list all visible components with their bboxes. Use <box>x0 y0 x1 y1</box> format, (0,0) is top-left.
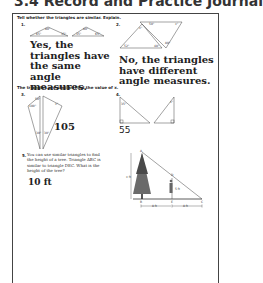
svg-text:x°: x° <box>170 100 174 104</box>
problem-3-number: 3. <box>21 92 25 97</box>
section2-instruction: The triangles are similar. Find the valu… <box>17 85 118 90</box>
problem-3-answer: 105 <box>54 122 75 133</box>
svg-text:x°: x° <box>139 26 143 30</box>
problem-2-triangles: 52° x° 48° 50° x° 80° <box>118 20 190 50</box>
problem-4-triangles: 35° x° <box>118 95 178 125</box>
svg-text:80°: 80° <box>83 27 89 31</box>
svg-text:100°: 100° <box>29 104 37 108</box>
svg-text:65°: 65° <box>36 32 42 36</box>
svg-text:30°: 30° <box>44 131 50 135</box>
problem-5-text: You can use similar triangles to find th… <box>27 152 105 174</box>
svg-text:5 ft: 5 ft <box>175 187 181 191</box>
tree-icon <box>133 153 151 199</box>
svg-text:35°: 35° <box>61 32 67 36</box>
problem-1-number: 1. <box>21 22 25 27</box>
problem-5-answer: 10 ft <box>28 178 52 187</box>
problem-1-triangles: 80° 65° 35° 80° 35° 65° <box>28 25 108 39</box>
svg-text:8 ft: 8 ft <box>152 204 158 208</box>
problem-5-number: 5. <box>22 153 26 158</box>
svg-text:8 ft: 8 ft <box>183 204 189 208</box>
svg-text:50°: 50° <box>149 22 155 26</box>
svg-text:35°: 35° <box>121 102 127 106</box>
page-title: 3.4 Record and Practice Journal <box>14 0 263 9</box>
svg-text:35°: 35° <box>76 32 82 36</box>
svg-text:x°: x° <box>175 22 179 26</box>
tree-similar-triangles-figure: x ft 5 ft A B C D E 8 ft 8 ft <box>128 150 208 212</box>
section1-instruction: Tell whether the triangles are similar. … <box>17 15 121 20</box>
svg-text:80°: 80° <box>165 41 171 45</box>
problem-4-answer: 55 <box>119 126 130 135</box>
svg-text:x°: x° <box>55 102 59 106</box>
svg-text:48°: 48° <box>154 44 160 48</box>
person-icon <box>170 178 173 199</box>
tree-height-label: x ft <box>126 175 132 179</box>
svg-text:C: C <box>201 200 203 204</box>
svg-text:B: B <box>140 200 142 204</box>
svg-text:65°: 65° <box>95 32 101 36</box>
problem-2-answer: No, the triangles have different angle m… <box>119 55 214 87</box>
angle-label: 80° <box>45 27 51 31</box>
svg-text:30°: 30° <box>36 131 42 135</box>
svg-text:50°: 50° <box>35 97 41 101</box>
svg-text:E: E <box>171 200 173 204</box>
svg-text:52°: 52° <box>124 44 130 48</box>
